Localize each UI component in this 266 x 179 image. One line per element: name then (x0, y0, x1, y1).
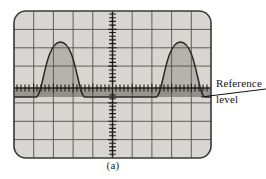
reference-level-annotation-line1: Reference (216, 77, 262, 89)
figure-caption: (a) (0, 159, 226, 171)
oscilloscope-figure: Reference level (a) (0, 0, 266, 179)
reference-level-annotation-line2: level (216, 93, 238, 105)
scope-display (0, 0, 266, 179)
